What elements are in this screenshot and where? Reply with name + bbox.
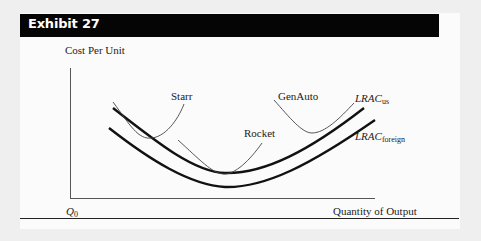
- origin-main: Q: [66, 205, 74, 217]
- genauto-label: GenAuto: [278, 90, 318, 102]
- rocket-label: Rocket: [244, 127, 275, 139]
- lrac-us-sub: us: [382, 97, 389, 106]
- lrac-foreign-main: LRAC: [355, 130, 382, 142]
- lrac-foreign-label: LRACforeign: [355, 130, 405, 144]
- x-axis-label: Quantity of Output: [333, 205, 417, 217]
- lrac-us-curve: [113, 108, 364, 173]
- origin-label: Q0: [66, 205, 78, 219]
- rocket-srac-curve: [178, 140, 262, 174]
- starr-label: Starr: [171, 90, 192, 102]
- lrac-us-main: LRAC: [355, 92, 382, 104]
- genauto-srac-curve: [274, 100, 354, 133]
- lrac-us-label: LRACus: [355, 92, 389, 106]
- lrac-foreign-sub: foreign: [382, 135, 405, 144]
- bottom-rule: [20, 218, 459, 219]
- starr-srac-curve: [113, 102, 184, 138]
